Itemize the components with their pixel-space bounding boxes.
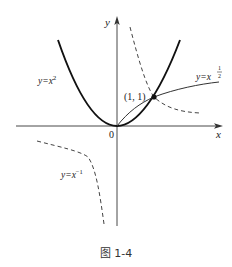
parabola-label-base: y=x xyxy=(37,76,54,86)
x-axis-label: x xyxy=(215,128,221,140)
parabola-curve xyxy=(58,40,180,126)
point-label: (1, 1) xyxy=(124,91,146,103)
sqrt-label-exp-den: 2 xyxy=(218,73,221,79)
reciprocal-label-base: y=x xyxy=(60,170,77,180)
power-functions-diagram: y x 0 (1, 1) y=x2 y=x 1 2 y=x−1 图 1-4 xyxy=(0,0,232,267)
axes xyxy=(16,21,219,226)
parabola-label-exp: 2 xyxy=(53,74,57,82)
sqrt-label-exp-num: 1 xyxy=(218,65,221,71)
y-axis-label: y xyxy=(104,16,110,28)
figure-caption: 图 1-4 xyxy=(100,247,132,260)
reciprocal-label-exp: −1 xyxy=(76,168,83,175)
reciprocal-curve-q3 xyxy=(37,141,104,224)
parabola-label: y=x2 xyxy=(37,74,57,86)
origin-label: 0 xyxy=(109,129,114,140)
sqrt-label-base: y=x xyxy=(195,72,212,82)
intersection-point xyxy=(151,94,156,99)
reciprocal-label: y=x−1 xyxy=(60,168,83,180)
